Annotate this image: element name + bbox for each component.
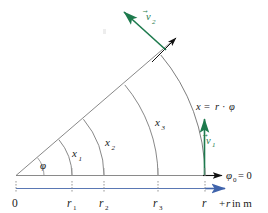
arc-length-formula-label: x = r · φ [195, 101, 235, 112]
svg-text:=: = [204, 101, 210, 112]
axis-tick-label-r: r [202, 197, 207, 209]
axis-tick-label-r1: r 1 [67, 197, 77, 212]
svg-text:0: 0 [12, 197, 18, 209]
svg-text:x: x [195, 101, 201, 112]
svg-text:2: 2 [152, 18, 156, 26]
vector-v2-green-arrow [124, 12, 166, 50]
svg-text:x: x [154, 116, 160, 128]
arc-label-x1: x 1 [71, 147, 82, 163]
axis-tick-label-0: 0 [12, 197, 18, 209]
diagram-canvas: φ x 1 x 2 x 3 x = r · φ ⃗ v 1 [0, 0, 268, 213]
svg-text:1: 1 [73, 204, 77, 212]
scan-artifact-speck [103, 29, 106, 34]
arc-r1 [59, 140, 72, 176]
arc-outer-r [161, 55, 205, 176]
arc-label-x3: x 3 [154, 116, 166, 132]
angle-phi-label: φ [40, 159, 46, 171]
svg-text:r: r [202, 197, 207, 209]
axis-tick-label-r3: r 3 [153, 197, 163, 212]
reference-angle-label: φ 0 = 0 [226, 169, 252, 184]
svg-text:1: 1 [212, 141, 216, 149]
axis-tick-label-r2: r 2 [99, 197, 109, 212]
arc-r2 [83, 119, 104, 175]
svg-text:φ: φ [226, 169, 232, 181]
svg-text:2: 2 [105, 204, 109, 212]
svg-text:x: x [104, 136, 110, 148]
svg-text:r: r [153, 197, 158, 209]
svg-text:x: x [71, 147, 77, 159]
radial-axis-blue [16, 168, 225, 193]
svg-text:r: r [99, 197, 104, 209]
axis-unit-label: + r in m [219, 197, 252, 209]
svg-text:r: r [215, 101, 220, 112]
svg-text:+: + [219, 197, 225, 209]
axis-tick-risers [72, 168, 205, 176]
svg-text:φ: φ [229, 101, 235, 112]
svg-text:r: r [67, 197, 72, 209]
svg-text:r: r [226, 197, 231, 209]
arc-label-x2: x 2 [104, 136, 116, 152]
axis-tick-marks [16, 181, 205, 193]
radius-ray-line [16, 43, 170, 176]
svg-text:v: v [146, 11, 151, 22]
vector-label-v2: ⃗ v 2 [142, 10, 156, 26]
svg-text:v: v [206, 135, 211, 146]
svg-text:= 0: = 0 [238, 170, 252, 181]
svg-text:3: 3 [161, 124, 166, 132]
svg-text:·: · [222, 101, 226, 112]
physics-diagram-circular-motion: φ x 1 x 2 x 3 x = r · φ ⃗ v 1 [0, 0, 268, 213]
svg-text:2: 2 [112, 144, 116, 152]
arc-r3 [125, 85, 158, 176]
svg-text:3: 3 [159, 204, 163, 212]
svg-text:in m: in m [232, 197, 252, 209]
svg-text:1: 1 [79, 155, 83, 163]
svg-text:0: 0 [233, 176, 237, 184]
